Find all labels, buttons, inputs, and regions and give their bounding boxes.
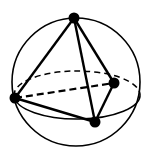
- edge-left-right-hidden: [15, 83, 114, 98]
- vertex-top: [69, 13, 80, 24]
- edge-top-left: [15, 18, 74, 98]
- vertex-left: [10, 93, 21, 104]
- tetrahedron-sphere-diagram: [0, 0, 150, 156]
- vertex-right: [109, 78, 120, 89]
- sphere-outline: [12, 18, 140, 146]
- vertex-bottom: [90, 117, 101, 128]
- equator-front-arc: [14, 94, 140, 119]
